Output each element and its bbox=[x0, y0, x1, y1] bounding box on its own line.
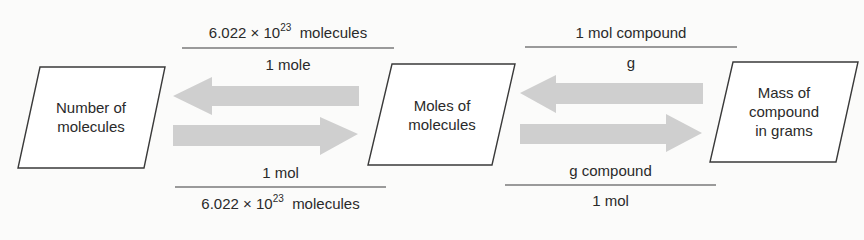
box-label-number: Number of molecules bbox=[30, 98, 152, 136]
fraction-numerator: 1 mol bbox=[175, 164, 386, 181]
denominator-base: 6.022 × 10 bbox=[201, 195, 272, 212]
numerator-base: 6.022 × 10 bbox=[209, 24, 280, 41]
label-line: Moles of bbox=[380, 96, 504, 115]
fraction-numerator: g compound bbox=[505, 162, 716, 179]
label-line: compound bbox=[722, 102, 846, 121]
exponent: 23 bbox=[280, 22, 291, 33]
box-label-mass: Mass of compound in grams bbox=[722, 83, 846, 140]
arrow-right-icon bbox=[520, 114, 702, 152]
exponent: 23 bbox=[273, 193, 284, 204]
label-line: Number of bbox=[30, 98, 152, 117]
arrow-right-icon bbox=[173, 117, 358, 155]
denominator-unit: molecules bbox=[292, 195, 360, 212]
numerator-unit: molecules bbox=[300, 24, 368, 41]
fraction-numerator: 1 mol compound bbox=[525, 24, 737, 41]
fraction-denominator: g bbox=[525, 54, 737, 71]
fraction-denominator: 1 mol bbox=[505, 192, 716, 209]
fraction-denominator: 1 mole bbox=[182, 56, 394, 73]
label-line: Mass of bbox=[722, 83, 846, 102]
label-line: molecules bbox=[380, 115, 504, 134]
label-line: molecules bbox=[30, 117, 152, 136]
box-label-moles: Moles of molecules bbox=[380, 96, 504, 134]
fraction-numerator: 6.022 × 1023 molecules bbox=[182, 24, 394, 41]
fraction-denominator: 6.022 × 1023 molecules bbox=[175, 195, 386, 212]
arrow-left-icon bbox=[520, 75, 703, 113]
label-line: in grams bbox=[722, 121, 846, 140]
arrow-left-icon bbox=[173, 77, 359, 115]
